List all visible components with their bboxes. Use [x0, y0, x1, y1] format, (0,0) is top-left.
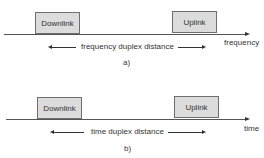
axis-label: time — [244, 124, 259, 133]
arrow-line — [54, 132, 84, 133]
uplink-block: Uplink — [172, 11, 217, 33]
downlink-block: Downlink — [35, 12, 80, 34]
axis-arrow-icon — [245, 32, 250, 36]
arrow-line — [178, 47, 202, 48]
frequency-axis — [4, 34, 246, 35]
time-axis — [6, 119, 246, 120]
downlink-block: Downlink — [37, 97, 82, 119]
arrow-line — [168, 132, 202, 133]
uplink-block: Uplink — [174, 96, 219, 118]
arrow-right-icon — [202, 45, 206, 49]
axis-arrow-icon — [245, 117, 250, 121]
caption: b) — [124, 144, 131, 153]
distance-label: time duplex distance — [91, 127, 164, 136]
caption: a) — [123, 58, 130, 67]
axis-label: frequency — [224, 38, 259, 47]
distance-label: frequency duplex distance — [81, 42, 174, 51]
arrow-line — [52, 47, 76, 48]
arrow-right-icon — [202, 130, 206, 134]
